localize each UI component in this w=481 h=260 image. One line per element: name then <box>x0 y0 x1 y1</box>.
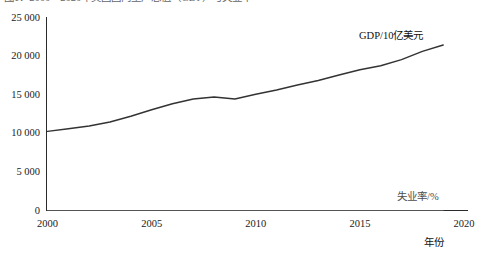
series-label-unemployment: 失业率/% <box>397 191 439 203</box>
x-tick-label: 2010 <box>245 218 266 230</box>
x-tick-label: 2005 <box>141 218 162 230</box>
x-axis-title: 年份 <box>424 237 444 249</box>
series-label-gdp: GDP/10亿美元 <box>359 30 423 42</box>
x-tick-label: 2000 <box>37 218 58 230</box>
x-tick-label: 2015 <box>349 218 370 230</box>
x-tick-label: 2020 <box>454 218 475 230</box>
chart-figure: 图1：2000～2020年美国国内生产总值（GDP）与失业率 05 00010 … <box>0 0 481 260</box>
